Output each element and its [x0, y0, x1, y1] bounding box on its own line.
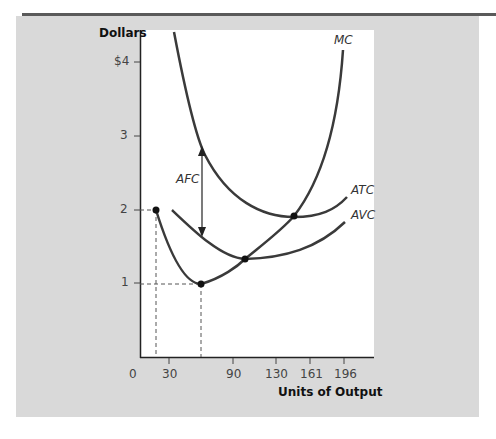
- x-ticks: [169, 358, 344, 364]
- afc-label: AFC: [176, 172, 200, 186]
- y-ticks: [134, 62, 140, 283]
- y-tick-label-3: 3: [120, 128, 128, 142]
- y-tick-label-1: 1: [121, 275, 129, 289]
- intersection-markers: [153, 207, 298, 288]
- avc-label: AVC: [351, 208, 375, 222]
- atc-curve: [174, 32, 347, 217]
- atc-min-dot: [291, 213, 298, 220]
- reference-dashes: [140, 210, 201, 357]
- avc-min-dot: [242, 256, 249, 263]
- mc-label: MC: [334, 33, 353, 47]
- y-axis-title: Dollars: [99, 26, 147, 40]
- x-tick-label-0: 0: [129, 367, 137, 381]
- avc-curve: [172, 210, 345, 259]
- atc-label: ATC: [351, 183, 374, 197]
- cost-curves-chart: [0, 0, 496, 439]
- afc-arrow: [198, 146, 206, 237]
- x-tick-label-90: 90: [226, 367, 241, 381]
- y-tick-label-4: $4: [114, 54, 129, 68]
- x-tick-label-161: 161: [300, 367, 323, 381]
- x-tick-label-130: 130: [265, 367, 288, 381]
- mc-min-dot: [198, 281, 205, 288]
- x-tick-label-30: 30: [162, 367, 177, 381]
- x-tick-label-196: 196: [334, 367, 357, 381]
- x-axis-title: Units of Output: [278, 385, 382, 399]
- mc-start-dot: [153, 207, 160, 214]
- y-tick-label-2: 2: [120, 202, 128, 216]
